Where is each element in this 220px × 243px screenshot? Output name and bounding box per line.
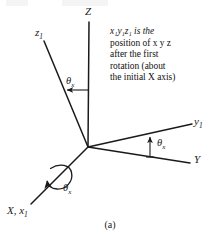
theta-x-right-label: θx (157, 138, 165, 149)
annotation-line-2: position of x y z (110, 38, 196, 50)
axis-line-X-x1 (31, 147, 88, 204)
axis-label-z1: z1 (35, 27, 43, 38)
axis-label-X-x1: X, x1 (7, 205, 28, 216)
axis-label-Y: Y (194, 154, 200, 165)
theta-x-top-label: θx (66, 76, 74, 87)
axis-line-z1 (44, 41, 88, 147)
figure-label: (a) (0, 219, 220, 230)
figure-annotation-text: x₁y₁z₁ is the position of x y z after th… (110, 26, 196, 84)
annotation-line-4: rotation (about (110, 61, 196, 73)
figure-container: Z z1 y1 Y X, x1 θx θx θx x₁y₁z₁ is the p… (0, 0, 220, 243)
axis-label-y1: y1 (194, 116, 203, 127)
annotation-line-1: x₁y₁z₁ is the (110, 26, 196, 38)
theta-x-rotation-label: θx (63, 183, 71, 194)
annotation-line-5: the initial X axis) (110, 72, 196, 84)
axis-line-Y (88, 147, 190, 163)
annotation-line-3: after the first (110, 49, 196, 61)
axis-label-Z: Z (85, 6, 91, 17)
axis-line-Z (88, 22, 89, 147)
axis-line-y1 (88, 124, 192, 147)
